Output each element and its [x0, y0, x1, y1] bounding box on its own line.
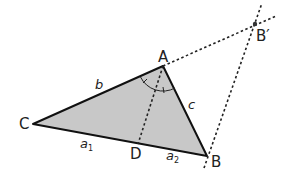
label-vertex-b: B [211, 153, 221, 171]
label-side-c: c [188, 97, 195, 112]
parallel-line-b-bprime [204, 3, 262, 168]
triangle-diagram: A B C D B′ b c a1 a2 [0, 0, 291, 179]
triangle-abc [33, 66, 207, 156]
label-side-b: b [95, 77, 103, 92]
label-point-d: D [130, 145, 142, 163]
label-point-bprime: B′ [256, 27, 270, 45]
label-vertex-c: C [19, 115, 29, 133]
point-bprime [253, 22, 257, 26]
label-vertex-a: A [158, 48, 169, 66]
label-side-a1: a1 [80, 136, 93, 153]
